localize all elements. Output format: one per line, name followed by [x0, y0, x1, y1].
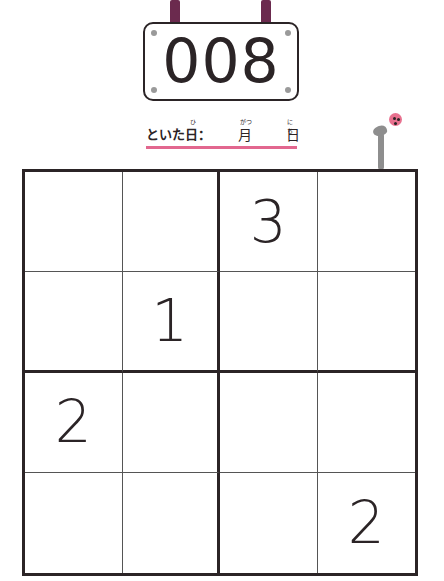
grid-cell[interactable]: 3 — [220, 172, 318, 272]
grid-cell[interactable] — [123, 172, 221, 272]
puzzle-number-sign: 008 — [143, 22, 299, 101]
grid-cell[interactable]: 2 — [25, 373, 123, 473]
grid-cell[interactable] — [318, 373, 416, 473]
grid-cell[interactable]: 2 — [318, 473, 416, 573]
puzzle-number: 008 — [145, 28, 297, 94]
grid-cell[interactable]: 1 — [123, 272, 221, 372]
sign-strap-left — [170, 0, 180, 24]
date-underline — [146, 146, 297, 149]
sudoku-grid: 3 1 2 2 — [22, 169, 418, 576]
solved-date-row: ひ といた日： がつ 月 にち 日 — [146, 118, 296, 146]
grid-cell[interactable] — [220, 373, 318, 473]
grid-cell[interactable] — [318, 172, 416, 272]
plant-stem-icon — [378, 133, 384, 170]
grid-cell[interactable] — [123, 373, 221, 473]
grid-cell[interactable] — [220, 272, 318, 372]
sign-strap-right — [261, 0, 271, 24]
grid-cell[interactable] — [220, 473, 318, 573]
grid-cell[interactable] — [318, 272, 416, 372]
ladybug-icon — [389, 113, 402, 126]
grid-cell[interactable] — [25, 473, 123, 573]
leaf-icon — [372, 124, 389, 138]
grid-cell[interactable] — [123, 473, 221, 573]
grid-cell[interactable] — [25, 272, 123, 372]
grid-cell[interactable] — [25, 172, 123, 272]
solved-date-label: といた日： — [146, 124, 211, 143]
month-label: 月 — [238, 124, 252, 144]
day-label: 日 — [286, 124, 300, 144]
